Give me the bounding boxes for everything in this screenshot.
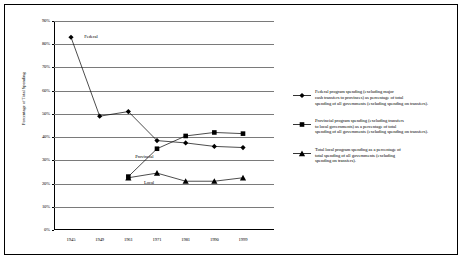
y-axis-tick-label: 50% — [42, 112, 50, 117]
chart-container: Percentage of Total Spending 0%10%20%30%… — [4, 4, 458, 255]
inline-label-local: Local — [144, 181, 154, 186]
inline-label-federal: Federal — [84, 35, 97, 40]
y-axis-tick-label: 70% — [42, 65, 50, 70]
triangle-marker — [154, 170, 160, 176]
x-axis-tick-label: 1961 — [124, 238, 133, 243]
diamond-marker — [68, 35, 73, 40]
x-axis-tick-label: 1981 — [181, 238, 190, 243]
legend-marker-square — [293, 121, 311, 128]
triangle-marker — [240, 175, 246, 181]
x-axis-tick-label: 1945 — [67, 238, 76, 243]
inline-label-provincial: Provincial — [135, 155, 153, 160]
legend-text-line: spending on transfers). — [315, 158, 459, 164]
y-axis-title: Percentage of Total Spending — [21, 72, 26, 125]
diamond-marker — [299, 93, 304, 98]
y-axis-tick-label: 40% — [42, 135, 50, 140]
y-axis-tick-label: 30% — [42, 158, 50, 163]
chart-legend: Federal program spending (excluding majo… — [293, 89, 459, 176]
y-axis-tick-label: 80% — [42, 42, 50, 47]
legend-text-line: spending of all governments (excluding s… — [315, 101, 459, 107]
x-axis-tick-label: 1990 — [210, 238, 219, 243]
square-marker — [300, 122, 305, 127]
diamond-marker — [97, 114, 102, 119]
y-axis-tick-label: 20% — [42, 181, 50, 186]
legend-entry: Federal program spending (excluding majo… — [293, 89, 459, 106]
legend-text-line: spending of all governments (excluding s… — [315, 129, 459, 135]
y-axis-tick-label: 60% — [42, 88, 50, 93]
legend-marker-triangle — [293, 150, 311, 157]
diamond-marker — [240, 145, 245, 150]
x-axis-tick-label: 1999 — [239, 238, 248, 243]
diamond-marker — [183, 140, 188, 145]
plot-area: 0%10%20%30%40%50%60%70%80%90% 1945194919… — [54, 21, 274, 230]
x-axis-tick-label: 1971 — [153, 238, 162, 243]
series-line-federal — [71, 37, 243, 147]
y-axis-tick-mark — [52, 230, 54, 231]
square-marker — [241, 131, 246, 136]
x-axis-tick-label: 1949 — [95, 238, 104, 243]
diamond-marker — [212, 144, 217, 149]
square-marker — [183, 134, 188, 139]
y-axis-tick-label: 0% — [44, 228, 50, 233]
square-marker — [212, 130, 217, 135]
square-marker — [155, 146, 160, 151]
legend-entry: Total local program spending as a percen… — [293, 147, 459, 164]
y-axis-tick-label: 90% — [42, 19, 50, 24]
y-axis-tick-label: 10% — [42, 204, 50, 209]
legend-marker-diamond — [293, 92, 311, 99]
series-lines — [54, 21, 274, 230]
legend-entry: Provincial program spending (excluding t… — [293, 118, 459, 135]
